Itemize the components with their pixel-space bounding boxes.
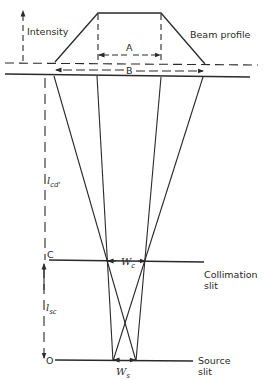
ray-outer-left (54, 76, 136, 361)
distance-sc-label: lsc (46, 302, 57, 316)
intensity-label: Intensity (27, 26, 69, 37)
source-slit-line (55, 360, 193, 361)
point-c-label: C (47, 249, 54, 260)
ray-inner-right (136, 77, 161, 361)
beam-profile-trapezoid (55, 13, 205, 64)
source-slit-label-line1: Source (198, 355, 231, 366)
beam-profile-label: Beam profile (190, 29, 251, 40)
source-slit-label-line2: slit (198, 366, 212, 377)
width-a-label: A (126, 42, 133, 53)
ray-inner-left (97, 76, 113, 361)
collimation-width-label: Wc (121, 256, 135, 270)
ray-outer-right (113, 77, 203, 361)
distance-cd-label: lcd' (47, 175, 60, 189)
point-o-label: O (46, 355, 53, 366)
collimation-slit-label-line2: slit (204, 280, 218, 291)
beam-diagram: Intensity Beam profile A B lcd' C lsc O … (0, 0, 264, 380)
source-width-label: Ws (116, 366, 130, 380)
width-b-label: B (126, 65, 133, 76)
collimation-slit-label-line1: Collimation (204, 269, 258, 280)
